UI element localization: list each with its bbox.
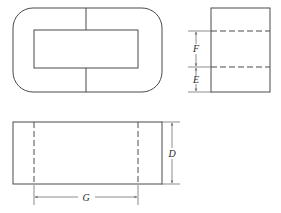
dimension-D-label: D — [167, 148, 176, 159]
front-view-outline — [13, 122, 162, 184]
right-side-view — [211, 8, 270, 92]
dimension-F: F — [188, 31, 212, 67]
bottom-front-view — [13, 122, 162, 184]
right-view-outline — [211, 8, 270, 92]
engineering-drawing-canvas: F E D G — [0, 0, 281, 213]
top-view-window-outline — [34, 30, 138, 68]
dimension-E-label: E — [192, 74, 199, 85]
top-plan-view — [13, 8, 162, 92]
dimension-G: G — [34, 185, 138, 205]
drawing-svg: F E D G — [0, 0, 281, 213]
dimension-F-label: F — [192, 43, 200, 54]
dimension-G-label: G — [82, 192, 89, 203]
dimension-E: E — [188, 68, 212, 92]
dimension-D: D — [161, 122, 180, 184]
